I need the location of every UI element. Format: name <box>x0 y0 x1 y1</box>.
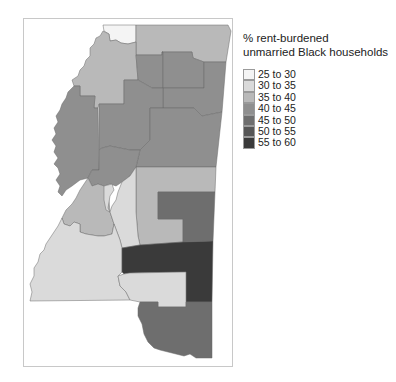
legend-swatch <box>243 126 255 137</box>
legend-swatch <box>243 80 255 91</box>
legend-item: 40 to 45 <box>243 103 393 114</box>
legend-items: 25 to 30 30 to 35 35 to 40 40 to 45 45 t… <box>243 69 393 149</box>
legend-title-line2: unmarried Black households <box>243 45 393 59</box>
legend-title-line1: % rent-burdened <box>243 31 393 45</box>
legend: % rent-burdened unmarried Black househol… <box>243 31 393 149</box>
legend-swatch <box>243 115 255 126</box>
region-south-west[interactable] <box>30 218 130 301</box>
legend-swatch <box>243 137 255 148</box>
legend-swatch <box>243 69 255 80</box>
legend-item: 55 to 60 <box>243 137 393 148</box>
region-gulf-coast[interactable] <box>138 302 212 358</box>
legend-swatch <box>243 92 255 103</box>
legend-label: 55 to 60 <box>258 137 296 148</box>
legend-label: 40 to 45 <box>258 103 296 114</box>
legend-swatch <box>243 103 255 114</box>
